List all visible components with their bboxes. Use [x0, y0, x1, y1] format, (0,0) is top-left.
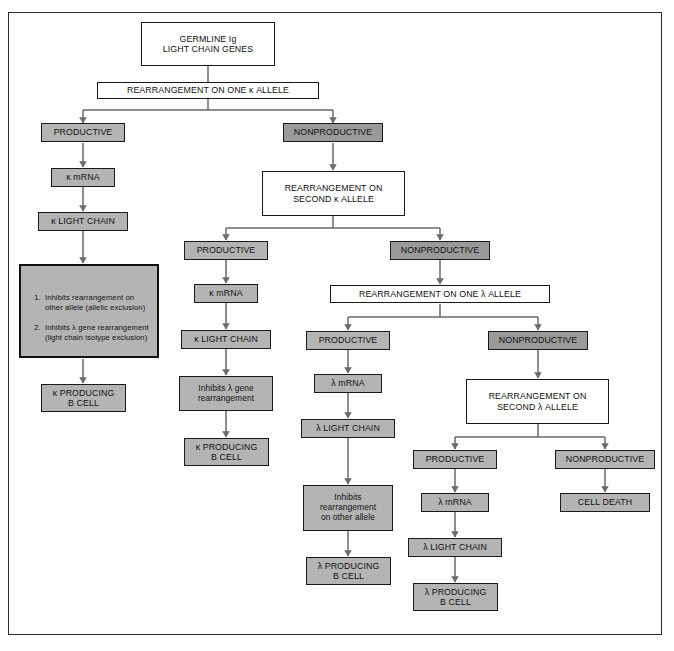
- node-l2-nonproductive: NONPRODUCTIVE: [555, 450, 655, 469]
- node-germline-genes: GERMLINE Ig LIGHT CHAIN GENES: [141, 22, 275, 66]
- node-l1-inhibits-rearrangement-other-allele: Inhibits rearrangement on other allele: [303, 485, 393, 531]
- node-rearrangement-second-kappa-allele: REARRANGEMENT ON SECOND κ ALLELE: [262, 171, 405, 216]
- node-l2-lambda-mrna: λ mRNA: [421, 493, 489, 512]
- node-k2-kappa-mrna: κ mRNA: [194, 284, 258, 303]
- node-l1-lambda-producing-b-cell: λ PRODUCING B CELL: [306, 557, 391, 585]
- node-rearrangement-one-lambda-allele: REARRANGEMENT ON ONE λ ALLELE: [330, 285, 550, 303]
- node-l1-productive: PRODUCTIVE: [306, 331, 390, 350]
- node-k1-kappa-mrna: κ mRNA: [51, 168, 115, 187]
- node-l1-lambda-mrna: λ mRNA: [314, 374, 382, 393]
- node-k2-nonproductive: NONPRODUCTIVE: [390, 241, 490, 260]
- node-k2-productive: PRODUCTIVE: [184, 241, 268, 260]
- list-item: Inhibits rearrangement on other allele (…: [43, 293, 149, 313]
- node-k1-productive: PRODUCTIVE: [41, 123, 125, 142]
- node-k1-kappa-producing-b-cell: κ PRODUCING B CELL: [41, 384, 126, 412]
- node-k1-nonproductive: NONPRODUCTIVE: [283, 123, 383, 142]
- node-k1-inhibits-list: Inhibits rearrangement on other allele (…: [19, 264, 159, 358]
- node-l1-lambda-light-chain: λ LIGHT CHAIN: [301, 419, 395, 438]
- node-rearrangement-second-lambda-allele: REARRANGEMENT ON SECOND λ ALLELE: [466, 379, 609, 424]
- node-l2-productive: PRODUCTIVE: [413, 450, 497, 469]
- node-k2-kappa-producing-b-cell: κ PRODUCING B CELL: [184, 438, 269, 466]
- list-item: Inhibits λ gene rearrangement (light cha…: [43, 323, 149, 343]
- node-k2-inhibits-lambda-gene-rearrangement: Inhibits λ gene rearrangement: [179, 376, 273, 411]
- node-k2-kappa-light-chain: κ LIGHT CHAIN: [181, 330, 271, 349]
- node-cell-death: CELL DEATH: [560, 493, 650, 512]
- node-l2-lambda-producing-b-cell: λ PRODUCING B CELL: [413, 583, 498, 611]
- diagram-page: GERMLINE Ig LIGHT CHAIN GENES REARRANGEM…: [0, 0, 674, 651]
- node-l1-nonproductive: NONPRODUCTIVE: [488, 331, 588, 350]
- node-k1-kappa-light-chain: κ LIGHT CHAIN: [38, 212, 128, 231]
- node-rearrangement-one-kappa-allele: REARRANGEMENT ON ONE κ ALLELE: [97, 82, 319, 99]
- node-l2-lambda-light-chain: λ LIGHT CHAIN: [408, 538, 502, 557]
